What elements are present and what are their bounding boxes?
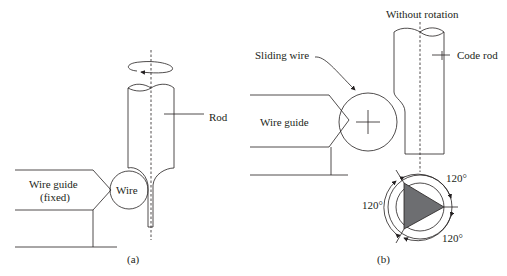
code-rod-body	[394, 32, 444, 154]
panel-b: Without rotation Code rod Sliding wire W…	[250, 8, 498, 266]
without-rotation-label: Without rotation	[386, 8, 459, 20]
rod-top-break	[128, 84, 174, 91]
wire-guide-base	[15, 210, 117, 247]
tick-bottom	[396, 229, 404, 243]
panel-a: Rod Wire Wire guide (fixed) (a)	[15, 50, 228, 266]
wire-guide-fixed-label: (fixed)	[40, 191, 70, 204]
angle-label-left: 120°	[362, 199, 383, 211]
wire-guide-base	[250, 147, 348, 175]
wire-label: Wire	[116, 184, 138, 196]
code-rod-label: Code rod	[457, 49, 498, 61]
rotation-arrow-icon	[128, 62, 172, 73]
rod-label: Rod	[209, 111, 228, 123]
wire-guide-fixed	[15, 170, 111, 210]
sliding-wire-label: Sliding wire	[255, 49, 309, 61]
wire-guide-label-b: Wire guide	[260, 116, 309, 128]
angle-label-bottom: 120°	[442, 232, 463, 244]
wire-guide-label: Wire guide	[29, 178, 78, 190]
caption-a: (a)	[127, 253, 140, 266]
angle-label-top: 120°	[446, 172, 467, 184]
tick-top	[396, 170, 404, 183]
code-rod-top-break	[394, 28, 444, 36]
sliding-wire-arrow	[315, 57, 355, 90]
triangle-section	[404, 183, 444, 229]
wire-guide-diagram: Rod Wire Wire guide (fixed) (a)	[0, 0, 507, 276]
caption-b: (b)	[377, 253, 390, 266]
